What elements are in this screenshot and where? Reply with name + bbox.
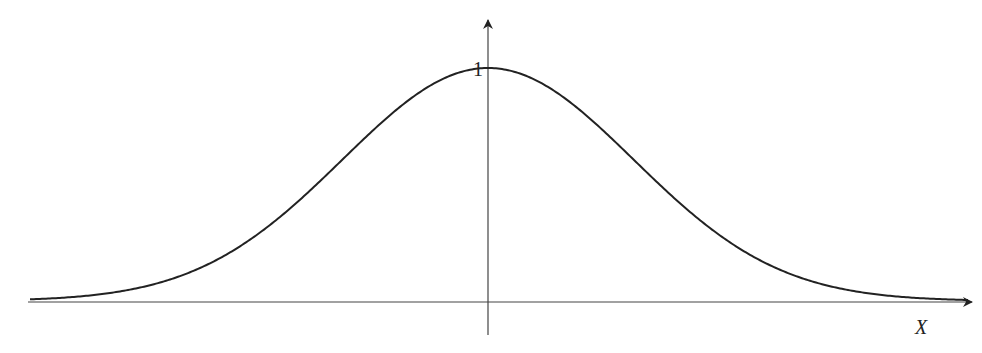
x-axis-label: X [914,316,928,338]
gaussian-chart: 1 X [0,0,982,353]
gaussian-curve [30,68,968,300]
peak-label: 1 [473,58,483,80]
